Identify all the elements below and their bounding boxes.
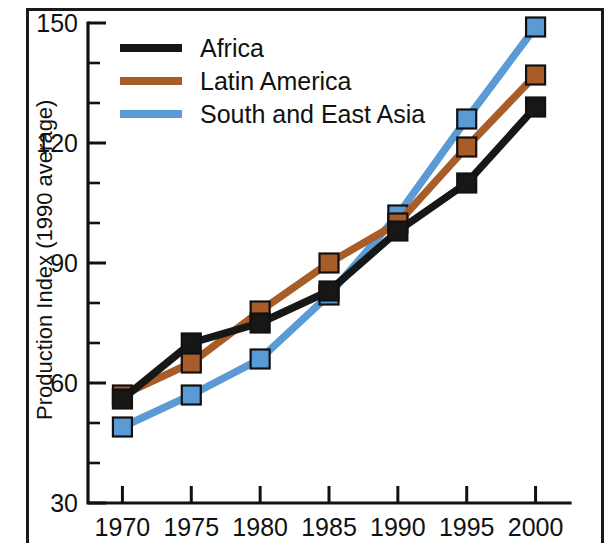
data-point-marker: [526, 18, 545, 37]
data-point-marker: [182, 354, 201, 373]
y-axis-ticks: [88, 23, 106, 503]
chart-figure: Production Index (1990 average) 30609012…: [0, 0, 614, 551]
data-point-marker: [320, 282, 339, 301]
x-tick-label-1995: 1995: [439, 513, 495, 541]
line-chart-plot: Production Index (1990 average) 30609012…: [0, 0, 614, 551]
data-point-marker: [251, 350, 270, 369]
data-point-marker: [182, 334, 201, 353]
y-tick-label-30: 30: [50, 489, 78, 517]
data-point-marker: [388, 222, 407, 241]
data-point-marker: [526, 66, 545, 85]
x-axis-ticks: [122, 486, 535, 503]
legend-label-0: Africa: [200, 34, 264, 62]
data-point-marker: [526, 98, 545, 117]
data-point-marker: [113, 418, 132, 437]
data-point-marker: [251, 314, 270, 333]
legend-label-2: South and East Asia: [200, 100, 425, 128]
data-point-marker: [457, 174, 476, 193]
x-tick-label-1980: 1980: [232, 513, 288, 541]
data-point-marker: [113, 390, 132, 409]
y-tick-label-90: 90: [50, 249, 78, 277]
data-point-marker: [182, 386, 201, 405]
data-point-marker: [320, 254, 339, 273]
y-tick-label-150: 150: [36, 9, 78, 37]
x-tick-label-1970: 1970: [95, 513, 151, 541]
data-point-marker: [457, 138, 476, 157]
data-point-marker: [457, 110, 476, 129]
x-tick-label-1990: 1990: [370, 513, 426, 541]
x-axis-tick-labels: 1970197519801985199019952000: [95, 513, 564, 541]
x-tick-label-2000: 2000: [508, 513, 564, 541]
x-tick-label-1985: 1985: [301, 513, 357, 541]
chart-legend: AfricaLatin AmericaSouth and East Asia: [120, 34, 425, 128]
y-tick-label-120: 120: [36, 129, 78, 157]
x-tick-label-1975: 1975: [163, 513, 219, 541]
legend-label-1: Latin America: [200, 67, 352, 95]
y-tick-label-60: 60: [50, 369, 78, 397]
